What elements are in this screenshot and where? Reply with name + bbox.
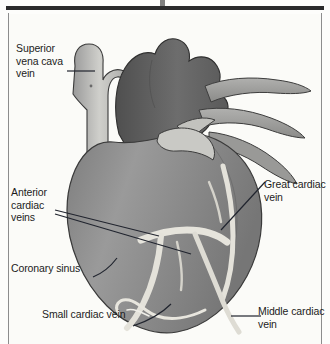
label-middle-cardiac-vein: Middle cardiac vein: [258, 305, 324, 330]
label-great-cardiac-vein: Great cardiac vein: [264, 178, 326, 203]
top-rule: [6, 6, 324, 10]
figure-panel: Superior vena cava vein Anterior cardiac…: [0, 0, 330, 344]
label-superior-vena-cava: Superior vena cava vein: [16, 42, 63, 80]
label-small-cardiac-vein: Small cardiac vein: [42, 308, 125, 321]
label-coronary-sinus: Coronary sinus: [11, 262, 80, 275]
label-anterior-cardiac-veins: Anterior cardiac veins: [11, 186, 47, 224]
